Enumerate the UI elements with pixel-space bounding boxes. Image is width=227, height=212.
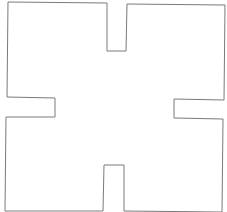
notched-square-outline xyxy=(5,2,225,212)
diagram-canvas xyxy=(0,0,227,212)
notched-square-diagram xyxy=(0,0,227,212)
